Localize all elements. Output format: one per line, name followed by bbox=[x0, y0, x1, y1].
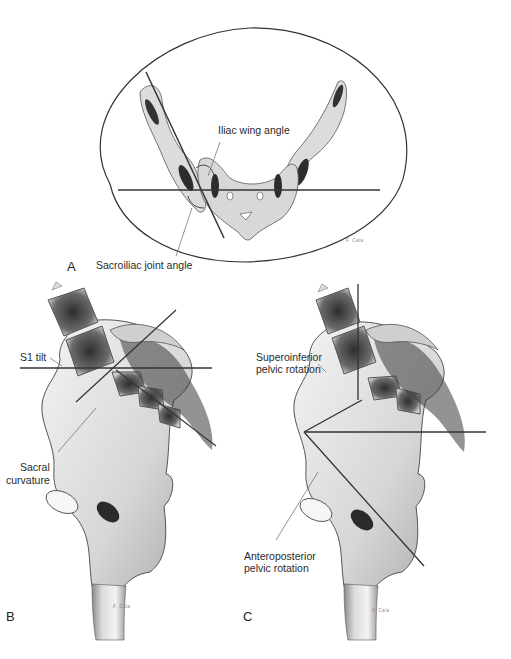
sacral-curvature-label-line2: curvature bbox=[6, 474, 50, 486]
artist-signature-c: F. Cala bbox=[372, 608, 389, 613]
superoinferior-rotation-label-line2: pelvic rotation bbox=[256, 363, 321, 375]
superoinferior-rotation-label-line1: Superoinferior bbox=[256, 351, 322, 363]
panel-c-illustration bbox=[276, 284, 486, 640]
artist-signature-b: F. Cala bbox=[113, 604, 130, 609]
artist-signature-a: F. Cala bbox=[346, 238, 363, 243]
panel-a-illustration bbox=[100, 28, 407, 262]
iliac-wing-angle-line bbox=[146, 72, 224, 238]
sacroiliac-leader bbox=[176, 208, 192, 256]
sacral-curvature-label-line1: Sacral bbox=[20, 461, 48, 473]
anteroposterior-rotation-label-line1: Anteroposterior bbox=[244, 550, 316, 562]
panel-letter-c: C bbox=[243, 609, 252, 624]
sacroiliac-joint-angle-label: Sacroiliac joint angle bbox=[96, 259, 192, 271]
sacrum bbox=[198, 158, 298, 240]
panel-letter-b: B bbox=[6, 609, 15, 624]
iliac-wing-angle-label: Iliac wing angle bbox=[218, 124, 290, 136]
panel-letter-a: A bbox=[67, 259, 76, 274]
s1-tilt-label: S1 tilt bbox=[20, 351, 46, 363]
anteroposterior-rotation-label-line2: pelvic rotation bbox=[244, 562, 309, 574]
